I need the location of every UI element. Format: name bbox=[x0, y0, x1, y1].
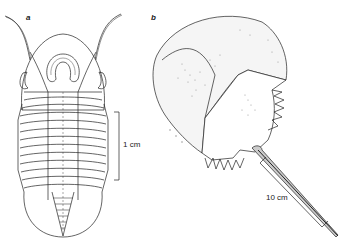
panel-label-b: b bbox=[151, 13, 156, 22]
horseshoe-crab-illustration bbox=[153, 16, 338, 237]
figure-canvas bbox=[0, 0, 352, 241]
trilobite-illustration bbox=[5, 14, 122, 237]
scale-label-a: 1 cm bbox=[123, 140, 140, 149]
scale-label-b: 10 cm bbox=[266, 193, 288, 202]
panel-label-a: a bbox=[26, 13, 30, 22]
scale-bar-a bbox=[114, 112, 119, 180]
